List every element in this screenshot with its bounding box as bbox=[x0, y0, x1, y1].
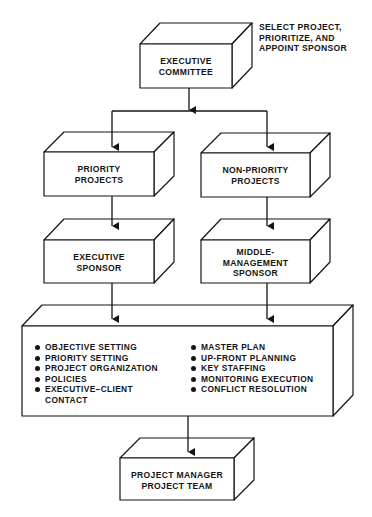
label-line: EXECUTIVE bbox=[44, 252, 154, 263]
list-item: MASTER PLAN bbox=[190, 342, 335, 353]
list-item: EXECUTIVE–CLIENT CONTACT bbox=[34, 384, 140, 405]
label-line: PROJECTS bbox=[44, 175, 154, 186]
label-line: MANAGEMENT bbox=[201, 258, 310, 269]
non-priority-projects-label: NON-PRIORITY PROJECTS bbox=[201, 165, 310, 186]
label-line: SPONSOR bbox=[44, 263, 154, 274]
label-line: SPONSOR bbox=[201, 268, 310, 279]
label-line: NON-PRIORITY bbox=[201, 165, 310, 176]
annotation-line: SELECT PROJECT, bbox=[259, 22, 347, 33]
executive-sponsor-box bbox=[44, 219, 174, 283]
responsibilities-left-list: OBJECTIVE SETTING PRIORITY SETTING PROJE… bbox=[34, 342, 184, 406]
project-manager-label: PROJECT MANAGER PROJECT TEAM bbox=[120, 470, 234, 491]
label-line: PRIORITY bbox=[44, 164, 154, 175]
middle-management-sponsor-label: MIDDLE- MANAGEMENT SPONSOR bbox=[201, 247, 310, 279]
executive-sponsor-label: EXECUTIVE SPONSOR bbox=[44, 252, 154, 273]
list-item: POLICIES bbox=[34, 374, 184, 385]
label-line: MIDDLE- bbox=[201, 247, 310, 258]
label-line: PROJECTS bbox=[201, 176, 310, 187]
annotation-select-project: SELECT PROJECT, PRIORITIZE, AND APPOINT … bbox=[259, 22, 347, 54]
executive-committee-label: EXECUTIVE COMMITTEE bbox=[140, 56, 232, 77]
list-item: KEY STAFFING bbox=[190, 363, 335, 374]
label-line: PROJECT MANAGER bbox=[120, 470, 234, 481]
label-line: EXECUTIVE bbox=[140, 56, 232, 67]
annotation-line: PRIORITIZE, AND bbox=[259, 33, 347, 44]
annotation-line: APPOINT SPONSOR bbox=[259, 43, 347, 54]
label-line: COMMITTEE bbox=[140, 67, 232, 78]
responsibilities-right-list: MASTER PLAN UP-FRONT PLANNING KEY STAFFI… bbox=[190, 342, 335, 395]
list-item: UP-FRONT PLANNING bbox=[190, 353, 335, 364]
list-item: CONFLICT RESOLUTION bbox=[190, 384, 335, 395]
list-item: PROJECT ORGANIZATION bbox=[34, 363, 184, 374]
list-item: PRIORITY SETTING bbox=[34, 353, 184, 364]
list-item: OBJECTIVE SETTING bbox=[34, 342, 184, 353]
list-item: MONITORING EXECUTION bbox=[190, 374, 335, 385]
label-line: PROJECT TEAM bbox=[120, 481, 234, 492]
priority-projects-label: PRIORITY PROJECTS bbox=[44, 164, 154, 185]
